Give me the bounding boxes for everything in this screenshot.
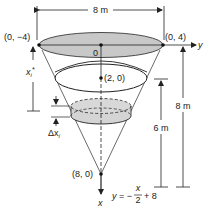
point-apex — [99, 172, 103, 176]
label-origin: 0 — [93, 48, 98, 58]
equation-denominator: 2 — [135, 195, 140, 205]
conical-tank-diagram: 8 m y x (0, −4) (0, 4) 0 (2, 0) (8, — [0, 0, 206, 212]
xi-star-dimension: xi* — [25, 47, 40, 111]
x-axis-label: x — [97, 198, 103, 208]
equation-rhs: + 8 — [144, 191, 157, 201]
equation-lhs: y = − — [111, 191, 132, 201]
xi-star-label: xi* — [25, 66, 35, 78]
label-water-center: (2, 0) — [104, 73, 125, 83]
point-right — [161, 43, 165, 47]
side-equation: y = − x 2 + 8 — [111, 183, 157, 205]
label-point-left: (0, −4) — [4, 32, 30, 42]
tank-depth-label: 8 m — [175, 101, 190, 111]
water-depth-label: 6 m — [153, 123, 168, 133]
water-depth-dimension: 6 m — [153, 79, 168, 187]
tank-depth-dimension: 8 m — [175, 47, 190, 187]
top-width-label: 8 m — [93, 5, 108, 15]
label-apex: (8, 0) — [72, 169, 93, 179]
point-left — [37, 43, 41, 47]
delta-x-label: Δxi — [48, 128, 61, 139]
y-axis-label: y — [197, 40, 203, 50]
equation-numerator: x — [135, 183, 141, 193]
label-point-right: (0, 4) — [165, 32, 186, 42]
point-origin — [99, 43, 103, 47]
point-water-center — [99, 76, 103, 80]
